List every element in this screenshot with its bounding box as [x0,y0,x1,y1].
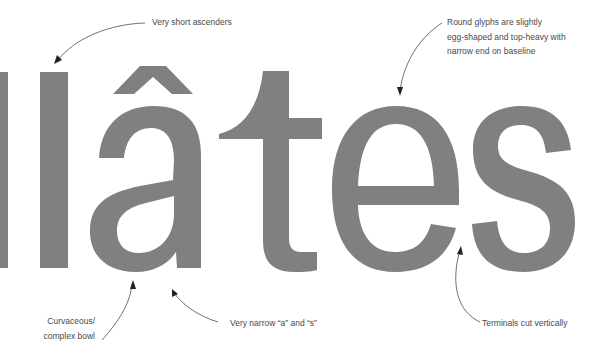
arrow-round-glyphs [400,23,442,92]
annotation-round-glyphs: Round glyphs are slightly egg-shaped and… [447,15,566,59]
arrow-ascenders [58,23,145,60]
annotation-terminals: Terminals cut vertically [482,316,568,331]
annotation-text: complex bowl [30,329,95,344]
glyph-l-2 [40,72,68,268]
glyph-l-1 [0,72,8,268]
arrowhead-bowl-icon [130,280,136,289]
glyph-t [219,71,322,272]
arrowhead-narrow-icon [172,289,178,297]
arrow-bowl [102,284,132,340]
arrow-narrow [174,293,218,322]
glyph-a [90,106,201,272]
arrowhead-round-glyphs-icon [397,87,403,96]
annotation-text: egg-shaped and top-heavy with [447,30,566,45]
annotation-text: Very narrow “a” and “s” [230,316,317,331]
annotation-text: narrow end on baseline [447,44,566,59]
glyph-e [332,106,459,272]
glyph-circumflex [113,66,193,94]
annotation-text: Curvaceous/ [30,314,95,329]
arrow-terminals [456,250,480,322]
typeface-specimen: Very short ascenders Round glyphs are sl… [0,0,605,358]
annotation-ascenders: Very short ascenders [152,15,232,30]
annotation-narrow: Very narrow “a” and “s” [230,316,317,331]
annotation-bowl: Curvaceous/ complex bowl [30,314,95,343]
arrowhead-terminals-icon [457,246,463,255]
glyph-s [472,106,575,272]
annotation-text: Round glyphs are slightly [447,15,566,30]
annotation-text: Terminals cut vertically [482,316,568,331]
annotation-text: Very short ascenders [152,15,232,30]
